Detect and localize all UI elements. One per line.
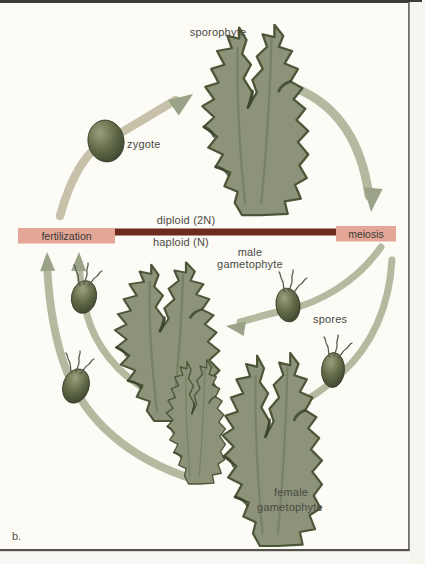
haploid-label: haploid (N) — [153, 236, 209, 248]
life-cycle-diagram: fertilization meiosis sporophyte zygote … — [0, 0, 425, 564]
female-gametophyte-label-line1: female — [274, 486, 308, 498]
female-gametophyte-label-line2: gametophyte — [257, 501, 323, 513]
frame-bottom-line — [0, 549, 410, 551]
sporophyte-label: sporophyte — [190, 26, 246, 38]
male-gametophyte-label-line2: gametophyte — [217, 258, 283, 270]
diploid-label: diploid (2N) — [157, 214, 216, 226]
figure-letter-label: b. — [12, 530, 21, 542]
male-gametophyte-label-line1: male — [238, 246, 263, 258]
outer-margin-bottom — [0, 552, 410, 564]
meiosis-label: meiosis — [348, 228, 384, 240]
outer-margin-right — [410, 2, 425, 564]
ploidy-divider-bar — [105, 229, 345, 236]
textbook-figure-page: fertilization meiosis sporophyte zygote … — [0, 0, 425, 564]
spores-label: spores — [313, 313, 348, 325]
frame-right-line — [408, 2, 410, 551]
zygote-label: zygote — [127, 138, 161, 150]
frame-top-line — [0, 0, 422, 3]
fertilization-label: fertilization — [41, 230, 91, 242]
